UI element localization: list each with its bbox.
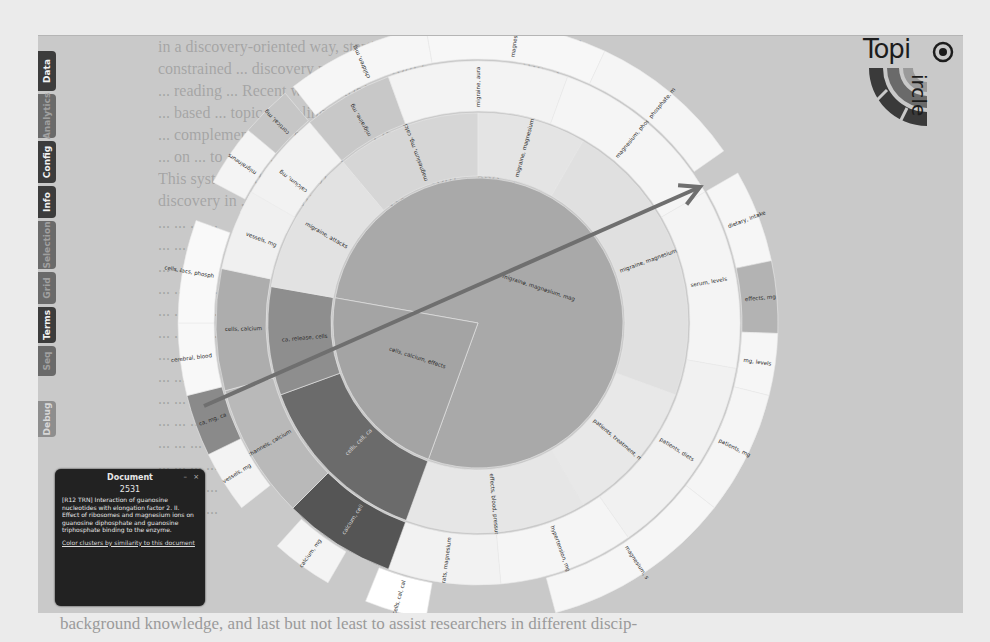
logo-text-topi: Topi bbox=[863, 34, 910, 64]
topicircle-app: in a discovery-oriented way, starting fr… bbox=[38, 35, 963, 613]
document-panel[interactable]: Document – × 2531 [R12 TRN] Interaction … bbox=[55, 469, 205, 606]
tab-config[interactable]: Config bbox=[38, 141, 56, 183]
topicircle-logo: Topi ircle bbox=[863, 38, 955, 130]
logo-text-ircle: ircle bbox=[907, 74, 931, 116]
tab-analytics[interactable]: Analytics bbox=[38, 94, 56, 138]
sunburst-segment-label: cells, calcium bbox=[225, 325, 262, 332]
tab-terms[interactable]: Terms bbox=[38, 307, 56, 343]
close-button[interactable]: × bbox=[193, 473, 199, 481]
tab-seq[interactable]: Seq bbox=[38, 346, 56, 376]
tab-selection[interactable]: Selection bbox=[38, 221, 56, 269]
document-panel-controls: – × bbox=[179, 474, 199, 482]
sunburst-segment-label: migraine, aura bbox=[475, 67, 482, 107]
tab-data[interactable]: Data bbox=[38, 51, 56, 91]
color-clusters-link[interactable]: Color clusters by similarity to this doc… bbox=[55, 534, 205, 547]
document-id: 2531 bbox=[55, 486, 205, 494]
document-text: [R12 TRN] Interaction of guanosine nucle… bbox=[55, 493, 205, 534]
tab-grid[interactable]: Grid bbox=[38, 272, 56, 304]
tab-info[interactable]: Info bbox=[38, 186, 56, 218]
paper-line-bottom: background knowledge, and last but not l… bbox=[60, 612, 637, 635]
minimize-button[interactable]: – bbox=[183, 473, 187, 481]
tab-debug[interactable]: Debug bbox=[38, 401, 56, 437]
